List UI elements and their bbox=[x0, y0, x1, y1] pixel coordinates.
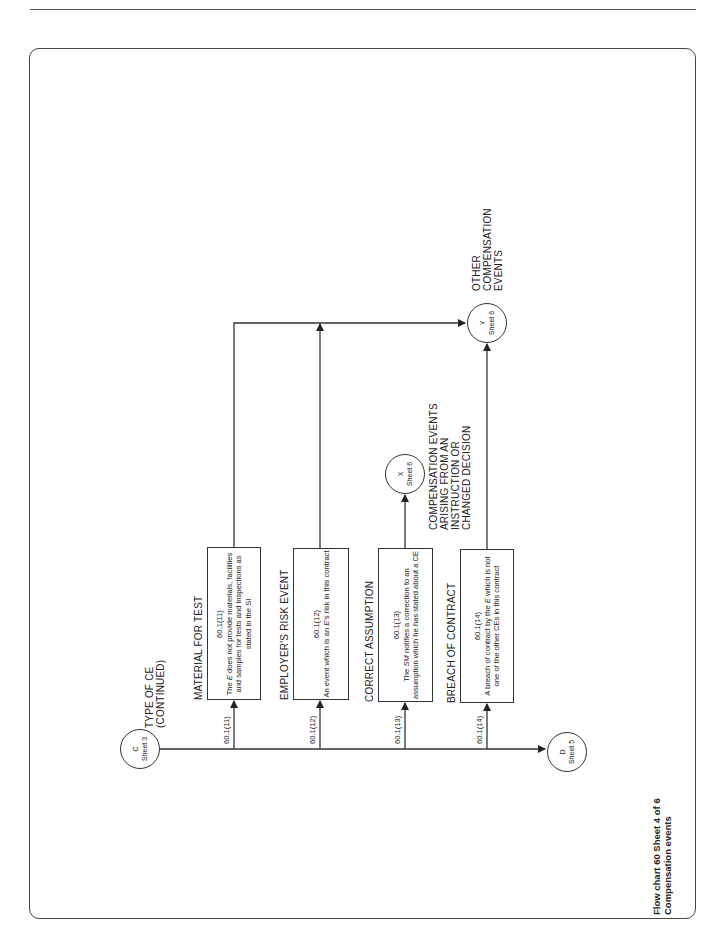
connector-d-letter: D bbox=[559, 749, 566, 754]
branch-11-clause: 60.1(11) bbox=[215, 610, 224, 638]
branch-13-clause: 60.1(13) bbox=[391, 611, 400, 639]
connector-x-sheet: Sheet 6 bbox=[406, 462, 413, 486]
branch-12-heading: EMPLOYER'S RISK EVENT bbox=[279, 569, 290, 700]
connector-c-letter: C bbox=[132, 746, 139, 751]
branch-11-box[interactable]: 60.1(11) The E does not provide material… bbox=[207, 547, 261, 700]
connector-y-label: OTHERCOMPENSATIONEVENTS bbox=[471, 208, 504, 291]
connector-y-sheet: Sheet 6 bbox=[488, 311, 495, 335]
figure-caption: Flow chart 60 Sheet 4 of 6Compensation e… bbox=[651, 798, 673, 915]
branch-14-clause-label: 60.1(14) bbox=[475, 716, 484, 744]
branch-13-box[interactable]: 60.1(13) The SM notifies a correction to… bbox=[378, 548, 433, 702]
flow-lines bbox=[0, 0, 710, 949]
connector-x-letter: X bbox=[397, 472, 404, 477]
connector-x-label: COMPENSATION EVENTSARISING FROM ANINSTRU… bbox=[428, 403, 472, 530]
connector-d[interactable]: DSheet 5 bbox=[547, 732, 587, 772]
connector-d-sheet: Sheet 5 bbox=[568, 740, 575, 764]
caption-line-2: Compensation events bbox=[662, 816, 673, 915]
caption-line-1: Flow chart 60 Sheet 4 of 6 bbox=[651, 798, 662, 915]
connector-x[interactable]: XSheet 6 bbox=[385, 454, 425, 494]
branch-13-heading: CORRECT ASSUMPTION bbox=[364, 581, 375, 702]
branch-12-clause: 60.1(12) bbox=[312, 610, 321, 638]
branch-11-clause-label: 60.1(11) bbox=[222, 716, 231, 744]
connector-y[interactable]: YSheet 6 bbox=[467, 303, 507, 343]
branch-13-clause-label: 60.1(13) bbox=[393, 716, 402, 744]
branch-14-clause: 60.1(14) bbox=[473, 612, 482, 640]
branch-14-box[interactable]: 60.1(14) A breach of contract by the E w… bbox=[460, 549, 514, 703]
branch-11-heading: MATERIAL FOR TEST bbox=[193, 596, 204, 700]
connector-c-sheet: Sheet 3 bbox=[141, 737, 148, 761]
branch-14-heading: BREACH OF CONTRACT bbox=[446, 583, 457, 703]
connector-y-letter: Y bbox=[479, 321, 486, 326]
connector-c-label: TYPE OF CE(CONTINUED) bbox=[144, 660, 166, 728]
branch-12-clause-label: 60.1(12) bbox=[308, 716, 317, 744]
connector-c[interactable]: CSheet 3 bbox=[120, 729, 160, 769]
branch-12-box[interactable]: 60.1(12) An event which is an E's risk i… bbox=[293, 548, 349, 700]
